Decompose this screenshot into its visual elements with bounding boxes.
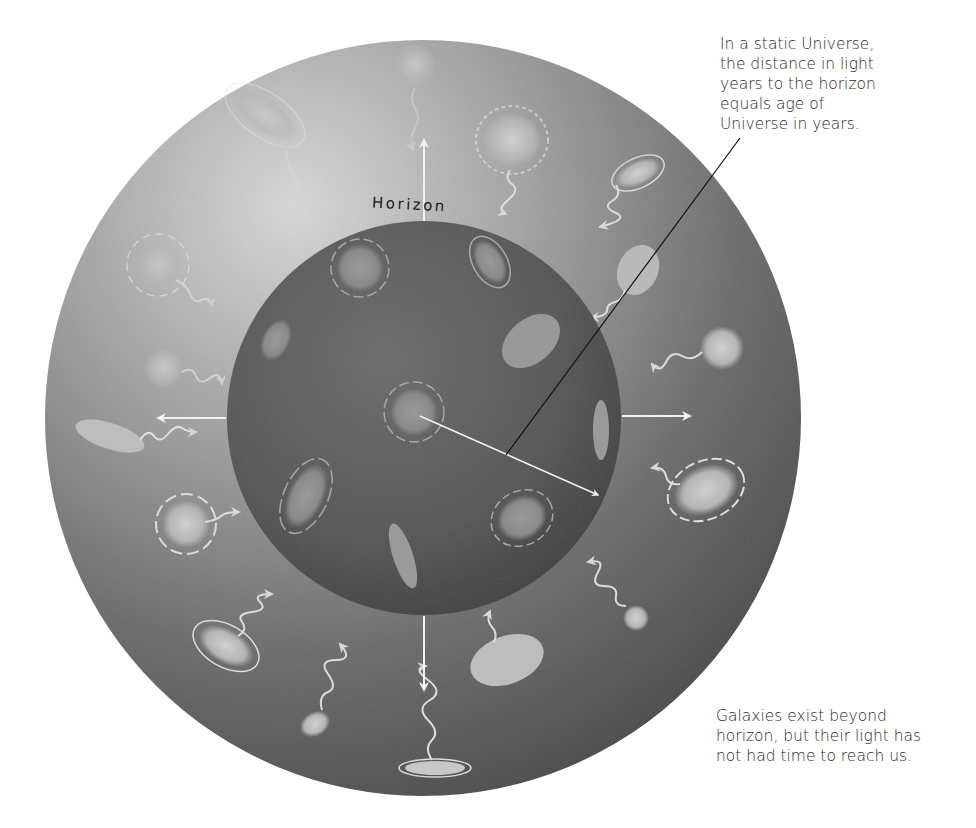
galaxy-icon <box>144 348 184 388</box>
galaxy-icon <box>623 605 649 631</box>
galaxy-icon <box>399 759 471 777</box>
beyond-horizon-annotation: Galaxies exist beyond horizon, but their… <box>716 706 921 766</box>
static-universe-annotation: In a static Universe, the distance in li… <box>720 34 876 134</box>
annotation-line: Universe in years. <box>720 114 876 134</box>
galaxy-icon <box>393 43 437 87</box>
annotation-line: equals age of <box>720 94 876 114</box>
annotation-line: Galaxies exist beyond <box>716 706 921 726</box>
galaxy-icon <box>700 326 744 370</box>
galaxy-icon <box>593 400 609 460</box>
annotation-line: not had time to reach us. <box>716 746 921 766</box>
annotation-line: horizon, but their light has <box>716 726 921 746</box>
annotation-line: the distance in light <box>720 54 876 74</box>
annotation-line: years to the horizon <box>720 74 876 94</box>
annotation-line: In a static Universe, <box>720 34 876 54</box>
